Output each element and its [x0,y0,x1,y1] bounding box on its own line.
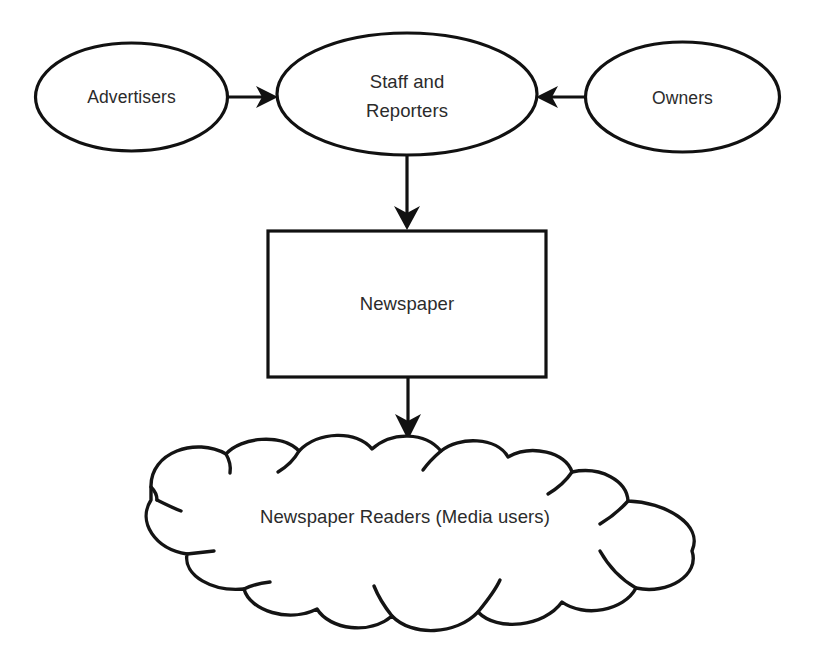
node-owners[interactable]: Owners [586,42,780,152]
newspaper-label: Newspaper [360,293,454,314]
staff-reporters-ellipse-shape [277,33,537,155]
advertisers-label: Advertisers [87,87,176,107]
node-newspaper-readers[interactable]: Newspaper Readers (Media users) [146,435,694,630]
edge-advertisers-to-staff [228,86,278,108]
owners-label: Owners [652,88,713,108]
node-newspaper[interactable]: Newspaper [268,231,546,377]
diagram-canvas: Advertisers Staff and Reporters Owners [0,0,817,664]
staff-reporters-label-line2: Reporters [366,100,448,121]
staff-reporters-label-line1: Staff and [370,71,445,92]
node-staff-and-reporters[interactable]: Staff and Reporters [277,33,537,155]
edge-newspaper-to-readers [395,377,421,440]
readers-label: Newspaper Readers (Media users) [260,506,550,527]
edge-owners-to-staff [536,86,585,108]
node-advertisers[interactable]: Advertisers [36,43,228,151]
edge-staff-to-newspaper [394,155,420,230]
